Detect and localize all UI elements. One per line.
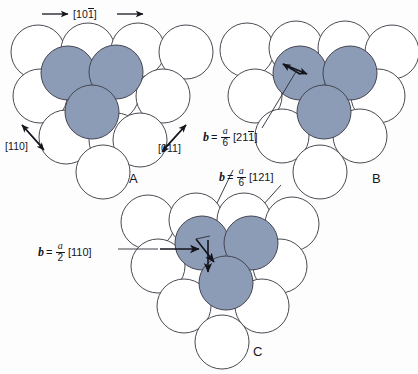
fraction: a 2 [55,241,65,263]
fraction-numerator: a [56,241,65,253]
atom-open [220,23,274,77]
fraction-denominator: 6 [220,138,230,149]
fraction-denominator: 6 [236,178,246,189]
burgers-label-121: b = a 6 [121] [219,166,273,188]
fraction-denominator: 2 [55,253,65,264]
panel-label-a: A [129,172,138,185]
burgers-symbol: b [38,246,44,258]
miller-index: [211] [233,131,257,144]
atom-open [293,145,347,199]
fraction: a 6 [236,166,246,188]
direction-label-left: [110] [5,141,28,152]
burgers-label-211: b = a 6 [211] [203,126,257,148]
figure-canvas: [101] [110] [011] A B C b = a 6 [211] b … [0,0,418,374]
atom-shaded [297,85,351,139]
equals-sign: = [227,172,233,183]
miller-index: [121] [249,172,273,183]
burgers-label-110: b = a 2 [110] [38,241,92,263]
atom-open [195,315,249,369]
panel-label-b: B [372,172,381,185]
burgers-symbol: b [203,131,209,143]
fraction: a 6 [220,126,230,148]
equals-sign: = [46,247,52,258]
panel-label-c: C [253,345,262,358]
atom-open [76,145,130,199]
fraction-numerator: a [221,126,230,138]
panel-a-atoms [11,23,213,199]
atom-shaded [65,85,119,139]
burgers-symbol: b [219,171,225,183]
diagram-svg [0,0,418,374]
fraction-numerator: a [237,166,246,178]
equals-sign: = [211,132,217,143]
direction-label-right: [011] [158,143,181,154]
atom-shaded [199,256,253,310]
panel-c-atoms [121,193,319,369]
direction-label-top: [101] [73,8,97,20]
miller-index: [110] [68,247,92,258]
